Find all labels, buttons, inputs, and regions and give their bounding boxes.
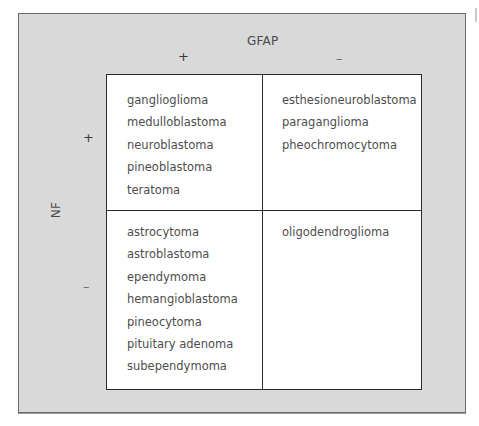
nf-positive-sign: + (83, 131, 94, 144)
grid-vertical-divider (262, 75, 263, 389)
list-item: teratoma (127, 179, 227, 201)
cell-gfap-neg-nf-neg: oligodendroglioma (282, 221, 389, 243)
gfap-negative-sign: – (336, 52, 343, 65)
cell-gfap-pos-nf-neg: astrocytoma astroblastoma ependymoma hem… (127, 221, 238, 378)
nf-negative-sign: – (83, 280, 90, 293)
list-item: paraganglioma (282, 111, 417, 133)
list-item: subependymoma (127, 355, 238, 377)
list-item: esthesioneuroblastoma (282, 89, 417, 111)
grid-horizontal-divider (107, 210, 421, 211)
scan-edge-mark (475, 8, 477, 22)
list-item: astroblastoma (127, 243, 238, 265)
cell-gfap-neg-nf-pos: esthesioneuroblastoma paraganglioma pheo… (282, 89, 417, 156)
list-item: ganglioglioma (127, 89, 227, 111)
classification-grid: ganglioglioma medulloblastoma neuroblast… (106, 74, 422, 390)
list-item: ependymoma (127, 266, 238, 288)
nf-axis-title: NF (49, 202, 63, 218)
list-item: medulloblastoma (127, 111, 227, 133)
list-item: hemangioblastoma (127, 288, 238, 310)
list-item: pineocytoma (127, 311, 238, 333)
list-item: oligodendroglioma (282, 221, 389, 243)
gfap-axis-title: GFAP (247, 34, 278, 48)
list-item: astrocytoma (127, 221, 238, 243)
list-item: pheochromocytoma (282, 134, 417, 156)
gfap-positive-sign: + (178, 50, 189, 63)
list-item: neuroblastoma (127, 134, 227, 156)
list-item: pituitary adenoma (127, 333, 238, 355)
cell-gfap-pos-nf-pos: ganglioglioma medulloblastoma neuroblast… (127, 89, 227, 201)
list-item: pineoblastoma (127, 156, 227, 178)
